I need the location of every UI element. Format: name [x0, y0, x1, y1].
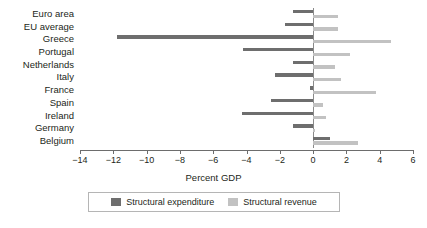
- chart-legend: Structural expenditure Structural revenu…: [88, 192, 340, 212]
- x-axis-tick: [247, 150, 248, 154]
- bar-structural-revenue: [313, 91, 376, 94]
- category-label: Greece: [0, 33, 78, 46]
- x-axis-tick: [346, 150, 347, 154]
- legend-item-structural-revenue: Structural revenue: [228, 197, 317, 207]
- category-label: Netherlands: [0, 59, 78, 72]
- x-axis-tick-label: −10: [139, 155, 154, 165]
- bar-structural-expenditure: [310, 86, 313, 89]
- bar-structural-expenditure: [293, 124, 313, 127]
- x-axis-tick: [113, 150, 114, 154]
- category-label: EU average: [0, 21, 78, 34]
- x-axis-tick: [180, 150, 181, 154]
- x-axis-tick-label: −4: [241, 155, 251, 165]
- bar-row: [80, 84, 413, 97]
- bar-row: [80, 8, 413, 21]
- x-axis-tick-label: −6: [208, 155, 218, 165]
- x-axis-tick: [213, 150, 214, 154]
- bar-structural-expenditure: [285, 23, 313, 26]
- x-axis-tick-label: −14: [72, 155, 87, 165]
- bar-row: [80, 59, 413, 72]
- bar-structural-expenditure: [313, 137, 330, 140]
- bar-row: [80, 135, 413, 148]
- legend-label-expenditure: Structural expenditure: [126, 197, 214, 207]
- bar-structural-revenue: [313, 129, 315, 132]
- x-axis-tick-label: 6: [410, 155, 415, 165]
- bar-row: [80, 97, 413, 110]
- bar-structural-expenditure: [242, 112, 314, 115]
- bar-structural-revenue: [313, 141, 358, 144]
- x-axis-tick-label: −8: [175, 155, 185, 165]
- category-label: Euro area: [0, 8, 78, 21]
- x-axis-tick: [80, 150, 81, 154]
- bar-structural-revenue: [313, 27, 338, 30]
- bar-row: [80, 46, 413, 59]
- category-label: France: [0, 84, 78, 97]
- x-axis-tick: [147, 150, 148, 154]
- category-axis-labels: Euro areaEU averageGreecePortugalNetherl…: [0, 8, 78, 148]
- x-axis-tick-label: −12: [106, 155, 121, 165]
- x-axis-tick-label: 4: [377, 155, 382, 165]
- category-label: Belgium: [0, 135, 78, 148]
- bar-row: [80, 122, 413, 135]
- bar-structural-revenue: [313, 116, 326, 119]
- category-label: Portugal: [0, 46, 78, 59]
- x-axis-tick: [313, 150, 314, 154]
- bar-structural-expenditure: [293, 10, 313, 13]
- plot-area: [80, 8, 413, 148]
- bar-structural-revenue: [313, 103, 323, 106]
- bar-row: [80, 21, 413, 34]
- bar-structural-revenue: [313, 15, 338, 18]
- legend-swatch-revenue-icon: [228, 198, 238, 206]
- bar-structural-revenue: [313, 40, 391, 43]
- bar-row: [80, 110, 413, 123]
- x-axis-tick: [280, 150, 281, 154]
- bar-structural-expenditure: [271, 99, 313, 102]
- bar-structural-revenue: [313, 53, 350, 56]
- x-axis-tick-label: 0: [311, 155, 316, 165]
- bar-structural-expenditure: [117, 35, 313, 38]
- bar-row: [80, 33, 413, 46]
- x-axis-tick: [380, 150, 381, 154]
- x-axis-tick-label: 2: [344, 155, 349, 165]
- legend-swatch-expenditure-icon: [111, 198, 121, 206]
- x-axis-tick-label: −2: [275, 155, 285, 165]
- category-label: Italy: [0, 71, 78, 84]
- bar-structural-expenditure: [293, 61, 313, 64]
- bar-structural-revenue: [313, 65, 335, 68]
- category-label: Germany: [0, 122, 78, 135]
- bar-chart: Euro areaEU averageGreecePortugalNetherl…: [0, 0, 427, 228]
- x-axis-title: Percent GDP: [0, 172, 427, 183]
- legend-item-structural-expenditure: Structural expenditure: [111, 197, 214, 207]
- legend-label-revenue: Structural revenue: [243, 197, 317, 207]
- category-label: Spain: [0, 97, 78, 110]
- bar-structural-expenditure: [243, 48, 313, 51]
- bar-structural-expenditure: [275, 73, 313, 76]
- category-label: Ireland: [0, 110, 78, 123]
- bar-structural-revenue: [313, 78, 341, 81]
- bar-row: [80, 71, 413, 84]
- x-axis-tick: [413, 150, 414, 154]
